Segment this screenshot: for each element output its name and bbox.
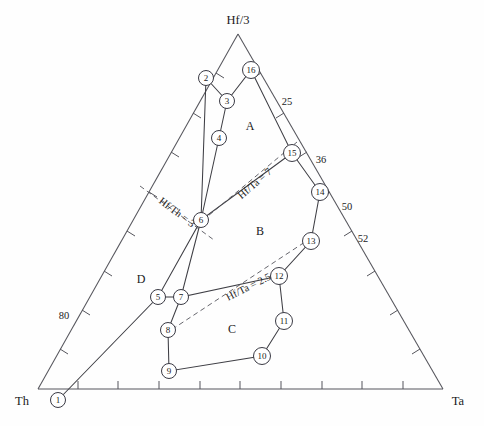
region-label-d: D <box>137 272 146 286</box>
region-label-b: B <box>256 224 264 238</box>
ternary-diagram-figure: Hf/Th = 3 Hf/Ta = 7 Hf/Ta = 2.5 Th Hf/3 … <box>0 0 484 426</box>
sample-marker-7[interactable]: 7 <box>174 290 189 305</box>
sample-marker-14[interactable]: 14 <box>312 184 329 201</box>
right-edge-ticks <box>253 73 420 354</box>
sample-marker-13[interactable]: 13 <box>303 233 320 250</box>
sample-marker-9[interactable]: 9 <box>162 364 177 379</box>
marker-number-14: 14 <box>316 187 326 197</box>
marker-number-4: 4 <box>217 133 222 143</box>
vertex-label-hf3: Hf/3 <box>227 13 250 27</box>
marker-number-2: 2 <box>204 73 209 83</box>
region-label-c: C <box>228 322 236 336</box>
field-boundaries <box>58 70 320 400</box>
sample-marker-5[interactable]: 5 <box>151 290 166 305</box>
sample-marker-11[interactable]: 11 <box>276 313 293 330</box>
triangle-outline <box>38 34 443 389</box>
marker-number-10: 10 <box>258 351 268 361</box>
marker-number-7: 7 <box>179 292 184 302</box>
marker-number-5: 5 <box>156 292 161 302</box>
marker-number-11: 11 <box>280 316 289 326</box>
ratio-label-hf-th-3: Hf/Th = 3 <box>157 195 197 229</box>
marker-number-13: 13 <box>307 236 317 246</box>
vertex-label-th: Th <box>15 394 30 408</box>
sample-marker-16[interactable]: 16 <box>243 62 260 79</box>
ternary-plot-svg: Hf/Th = 3 Hf/Ta = 7 Hf/Ta = 2.5 Th Hf/3 … <box>0 0 484 426</box>
marker-number-12: 12 <box>275 271 284 281</box>
marker-number-15: 15 <box>288 148 298 158</box>
tick-label-80: 80 <box>59 310 70 321</box>
sample-marker-8[interactable]: 8 <box>161 323 176 338</box>
triangle-left-edge <box>38 34 238 389</box>
tick-label-36: 36 <box>316 154 327 165</box>
sample-marker-15[interactable]: 15 <box>284 145 301 162</box>
marker-number-3: 3 <box>225 96 230 106</box>
marker-number-8: 8 <box>166 325 171 335</box>
bottom-edge-ticks <box>78 381 403 389</box>
sample-marker-1[interactable]: 1 <box>51 393 66 408</box>
field-D-boundary <box>58 78 206 400</box>
sample-marker-2[interactable]: 2 <box>199 71 214 86</box>
region-label-a: A <box>246 119 255 133</box>
vertex-label-ta: Ta <box>452 394 465 408</box>
vertex-labels: Th Hf/3 Ta <box>15 13 465 408</box>
sample-marker-6[interactable]: 6 <box>194 213 209 228</box>
ratio-label-hf-ta-2p5: Hf/Ta = 2.5 <box>224 271 272 303</box>
sample-marker-10[interactable]: 10 <box>254 348 271 365</box>
marker-number-1: 1 <box>56 395 61 405</box>
marker-number-6: 6 <box>199 215 204 225</box>
triangle-right-edge <box>238 34 443 389</box>
ratio-label-hf-ta-7: Hf/Ta = 7 <box>236 166 274 201</box>
tick-label-52: 52 <box>358 233 369 244</box>
sample-marker-4[interactable]: 4 <box>212 131 227 146</box>
tick-label-25: 25 <box>282 96 293 107</box>
sample-marker-12[interactable]: 12 <box>271 268 288 285</box>
sample-marker-3[interactable]: 3 <box>220 94 235 109</box>
tick-label-50: 50 <box>342 201 353 212</box>
ratio-lines <box>140 142 308 334</box>
sample-markers: 12345678910111213141516 <box>51 62 329 408</box>
axis-tick-labels: 80 25 36 50 52 <box>59 96 369 321</box>
marker-number-16: 16 <box>247 65 257 75</box>
marker-number-9: 9 <box>167 366 172 376</box>
